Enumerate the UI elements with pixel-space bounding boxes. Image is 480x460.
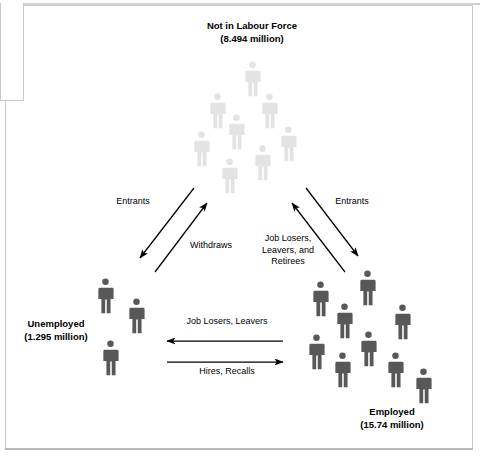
group-value: (15.74 million) xyxy=(326,419,458,432)
flow-label-withdraws: Withdraws xyxy=(180,240,242,252)
person-icon xyxy=(416,368,431,403)
group-label-employed: Employed (15.74 million) xyxy=(326,406,458,431)
person-icon xyxy=(210,93,225,128)
person-icon xyxy=(337,303,352,338)
person-icon xyxy=(281,126,296,161)
flow-label-line2: Leavers, and xyxy=(252,245,324,257)
flow-label-line1: Job Losers, xyxy=(252,233,324,245)
flow-label-line3: Retirees xyxy=(252,256,324,268)
flow-label-text: Hires, Recalls xyxy=(176,366,278,378)
flow-label-text: Entrants xyxy=(104,196,162,208)
arrow-withdraws xyxy=(155,203,207,272)
person-icon xyxy=(255,145,270,180)
person-icon xyxy=(194,131,209,166)
group-value: (1.295 million) xyxy=(2,331,110,344)
diagram-canvas: Not in Labour Force (8.494 million) Unem… xyxy=(0,0,480,460)
flow-label-entrants-right: Entrants xyxy=(324,196,380,208)
group-value: (8.494 million) xyxy=(152,33,352,46)
person-icon xyxy=(360,270,375,305)
flow-label-entrants-left: Entrants xyxy=(104,196,162,208)
person-icon xyxy=(313,281,328,316)
labour-force-flow-svg xyxy=(0,0,480,460)
person-icon xyxy=(395,304,410,339)
group-label-not-in-labour-force: Not in Labour Force (8.494 million) xyxy=(152,20,352,45)
person-icon xyxy=(262,93,277,128)
person-icon xyxy=(361,331,376,366)
flow-label-text: Withdraws xyxy=(180,240,242,252)
person-icon xyxy=(229,114,244,149)
person-icon xyxy=(335,352,350,387)
person-icon xyxy=(245,61,260,96)
flow-label-job-losers-leavers: Job Losers, Leavers xyxy=(172,316,282,328)
group-name: Not in Labour Force xyxy=(207,20,297,31)
flow-label-hires-recalls: Hires, Recalls xyxy=(176,366,278,378)
person-icon xyxy=(103,340,118,375)
person-icon xyxy=(309,334,324,369)
figure-group-employed xyxy=(309,270,431,403)
flow-label-text: Job Losers, Leavers xyxy=(172,316,282,328)
person-icon xyxy=(98,278,113,313)
person-icon xyxy=(129,298,144,333)
figure-group-not-in-labour-force xyxy=(194,61,296,193)
person-icon xyxy=(222,158,237,193)
person-icon xyxy=(388,352,403,387)
group-name: Unemployed xyxy=(27,318,84,329)
flow-label-text: Entrants xyxy=(324,196,380,208)
group-label-unemployed: Unemployed (1.295 million) xyxy=(2,318,110,343)
group-name: Employed xyxy=(369,406,414,417)
flow-label-job-losers-leavers-retirees: Job Losers, Leavers, and Retirees xyxy=(252,233,324,268)
